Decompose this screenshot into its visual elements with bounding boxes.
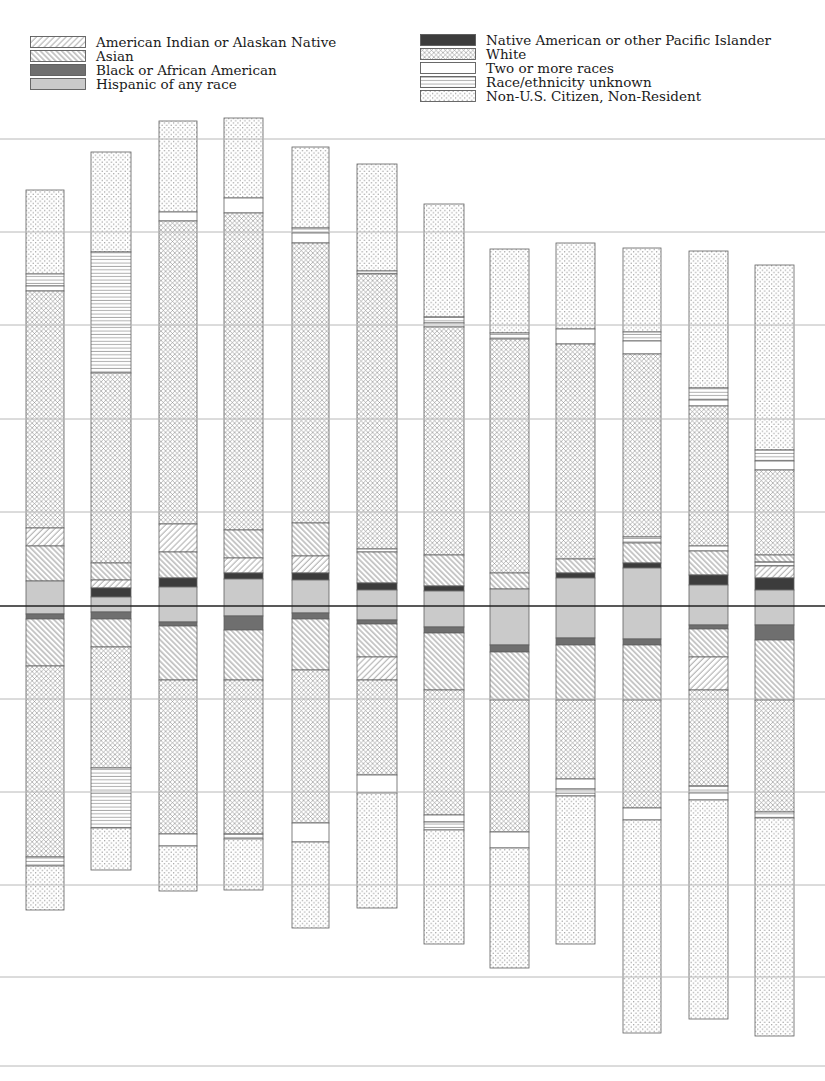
segment-nonres [689,251,728,388]
segment-black [623,639,661,645]
legend-item-white: White [420,47,771,61]
bar-10 [623,248,661,1033]
segment-unknown [424,822,464,830]
segment-two [26,286,64,291]
segment-hispanic [556,578,595,638]
segment-two [689,400,728,406]
segment-two [623,808,661,820]
segment-nhpi [424,586,464,591]
segment-black [357,620,397,624]
segment-black [91,612,131,619]
segment-white [357,680,397,775]
segment-black [26,614,64,619]
segment-white [224,680,263,834]
segment-asian [623,543,661,563]
legend-label: White [486,47,526,61]
segment-two [292,823,329,842]
segment-asian [292,523,329,556]
segment-two [755,461,794,470]
segment-black [755,625,794,640]
segment-two [556,779,595,789]
segment-asian [91,563,131,580]
segment-two [490,832,529,848]
segment-white [556,700,595,779]
segment-nhpi [623,563,661,568]
segment-unknown [689,388,728,400]
bar-11 [689,251,728,1019]
segment-white [26,291,64,528]
chart-page: American Indian or Alaskan Native Asian … [0,0,825,1081]
segment-unknown [755,562,794,566]
segment-nhpi [91,588,131,597]
legend-item-two: Two or more races [420,61,771,75]
legend-swatch-black-icon [30,64,86,76]
segment-nonres [224,118,263,198]
legend-label: Native American or other Pacific Islande… [486,33,771,47]
segment-unknown [26,274,64,286]
segment-nhpi [755,578,794,590]
segment-nonres [159,121,197,212]
segment-nhpi [224,573,263,579]
segment-white [490,700,529,832]
segment-nonres [755,818,794,1036]
segment-white [689,690,728,786]
legend-item-amind: American Indian or Alaskan Native [30,35,336,49]
segment-white [159,221,197,524]
segment-hispanic [755,590,794,625]
legend-swatch-two-icon [420,62,476,74]
legend-label: Race/ethnicity unknown [486,75,652,89]
legend-label: Hispanic of any race [96,77,237,91]
segment-amind [689,657,728,690]
segment-asian [556,645,595,700]
segment-hispanic [623,568,661,639]
segment-nonres [357,793,397,908]
segment-hispanic [91,597,131,612]
segment-white [292,670,329,823]
segment-asian [26,546,64,581]
segment-white [689,406,728,546]
segment-asian [623,645,661,700]
segment-asian [159,552,197,578]
segment-nonres [91,828,131,870]
segment-white [490,339,529,573]
legend-item-nonres: Non-U.S. Citizen, Non-Resident [420,89,771,103]
segment-unknown [623,537,661,543]
bar-5 [292,147,329,928]
segment-asian [490,652,529,700]
segment-nonres [357,164,397,271]
segment-white [91,373,131,563]
legend-item-black: Black or African American [30,63,336,77]
bar-3 [159,121,197,891]
segment-nonres [556,796,595,944]
bars-layer [26,118,794,1036]
segment-nonres [490,848,529,968]
segment-white [556,344,595,559]
bar-8 [490,249,529,968]
segment-two [159,212,197,221]
segment-two [556,329,595,344]
segment-asian [689,629,728,657]
segment-black [556,638,595,645]
stacked-bar-chart [0,0,825,1081]
legend-label: Black or African American [96,63,277,77]
legend-label: Two or more races [486,61,614,75]
segment-asian [357,552,397,583]
segment-nonres [556,243,595,329]
segment-white [623,354,661,537]
legend-item-asian: Asian [30,49,336,63]
legend-item-nhpi: Native American or other Pacific Islande… [420,33,771,47]
segment-asian [755,555,794,562]
segment-nhpi [689,575,728,585]
segment-asian [91,619,131,647]
segment-two [357,775,397,793]
bar-4 [224,118,263,890]
legend-item-hispanic: Hispanic of any race [30,77,336,91]
segment-two [424,815,464,822]
legend-swatch-asian-icon [30,50,86,62]
segment-white [755,700,794,812]
segment-nonres [623,248,661,332]
segment-nhpi [357,583,397,590]
segment-nhpi [159,578,197,587]
segment-two [623,341,661,354]
segment-nonres [623,820,661,1033]
